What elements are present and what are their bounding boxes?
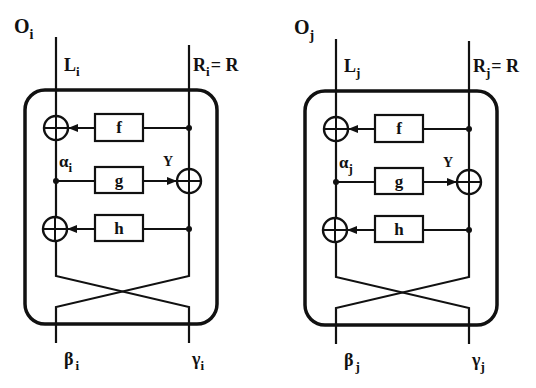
- alpha-label: αi: [59, 152, 73, 175]
- input-right-label: Ri= R: [193, 55, 239, 79]
- input-right-label: Rj= R: [473, 56, 520, 80]
- junction-dot: [466, 227, 472, 233]
- cross-wire-2: [56, 255, 189, 343]
- cross-wire-1: [56, 255, 189, 343]
- g-label: g: [395, 172, 404, 191]
- xor-icon: [457, 170, 481, 194]
- h-label: h: [394, 220, 404, 239]
- block-name: Oi: [14, 15, 34, 42]
- alpha-label: αj: [339, 153, 353, 176]
- xor-icon: [323, 218, 347, 242]
- output-left-label: βi: [64, 349, 79, 373]
- cross-wire-1: [336, 256, 469, 344]
- block-j: Oj Lj Rj= R f αj g Y h: [294, 16, 520, 374]
- cross-wire-2: [336, 256, 469, 344]
- xor-icon: [44, 116, 68, 140]
- xor-icon: [43, 217, 67, 241]
- junction-dot: [186, 125, 192, 131]
- output-right-label: γj: [471, 350, 485, 374]
- input-left-label: Lj: [344, 56, 360, 80]
- block-i: Oi Li Ri= R f αi g Y: [14, 15, 239, 373]
- xor-icon: [324, 117, 348, 141]
- diagram-canvas: Oi Li Ri= R f αi g Y: [0, 0, 536, 388]
- y-label: Y: [443, 155, 453, 170]
- h-label: h: [114, 219, 124, 238]
- g-label: g: [115, 171, 124, 190]
- junction-dot: [466, 126, 472, 132]
- junction-dot: [186, 226, 192, 232]
- f-label: f: [396, 119, 402, 138]
- y-label: Y: [163, 154, 173, 169]
- output-left-label: βj: [344, 350, 360, 374]
- block-name: Oj: [294, 16, 314, 43]
- output-right-label: γi: [191, 349, 204, 373]
- input-left-label: Li: [64, 55, 80, 79]
- f-label: f: [116, 118, 122, 137]
- xor-icon: [177, 169, 201, 193]
